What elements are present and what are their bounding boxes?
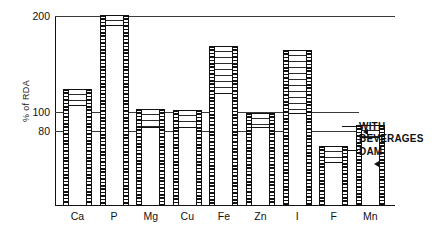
y-tick-label-200: 200 <box>16 11 50 22</box>
x-tick-label-ca: Ca <box>57 211 98 222</box>
bar-edge-right <box>123 15 129 205</box>
bar-edge-left <box>246 113 252 205</box>
annotation-with-beverages-line2: BEVERAGES <box>359 133 424 144</box>
bar-edge-right <box>269 113 275 205</box>
annotation-dam-label: DAM <box>359 146 382 157</box>
bar-cu <box>173 110 202 205</box>
x-tick-label-f: F <box>313 211 354 222</box>
x-tick-label-p: P <box>94 211 135 222</box>
bar-edge-left <box>209 46 215 205</box>
y-axis-ticks: 200 100 80 <box>12 0 50 241</box>
bar-edge-left <box>283 50 289 205</box>
annotation-with-beverages: WITH BEVERAGES <box>359 121 424 144</box>
bar-edge-right <box>306 50 312 205</box>
x-tick-label-mn: Mn <box>350 211 391 222</box>
bar-edge-left <box>63 89 69 205</box>
leader-line-dam <box>344 150 358 151</box>
bar-edge-right <box>232 46 238 205</box>
bar-edge-right <box>196 110 202 205</box>
bar-fe <box>209 46 238 205</box>
bar-f <box>319 146 348 205</box>
bar-p <box>100 15 129 205</box>
annotation-dam: DAM <box>359 146 382 158</box>
arrow-with-beverages-arrowhead <box>363 129 368 135</box>
y-axis-line <box>55 16 56 206</box>
plot-area: CaPMgCuFeZnIFMn <box>55 16 395 206</box>
y-tick-label-100: 100 <box>16 107 50 118</box>
bar-edge-left <box>319 146 325 205</box>
bar-ca <box>63 89 92 205</box>
bar-i <box>283 50 312 205</box>
x-tick-label-mg: Mg <box>130 211 171 222</box>
arrow-dam-arrowhead <box>374 161 379 167</box>
bar-mg <box>136 109 165 205</box>
bar-chart-figure: % of RDA 200 100 80 CaPMgCuFeZnIFMn WITH… <box>0 0 435 241</box>
bar-edge-left <box>173 110 179 205</box>
x-axis-line <box>55 205 395 206</box>
y-tick-label-80: 80 <box>16 126 50 137</box>
x-tick-label-i: I <box>277 211 318 222</box>
bar-edge-right <box>342 146 348 205</box>
bar-edge-right <box>86 89 92 205</box>
bar-zn <box>246 113 275 205</box>
x-tick-label-fe: Fe <box>203 211 244 222</box>
x-tick-label-zn: Zn <box>240 211 281 222</box>
bar-edge-right <box>159 109 165 205</box>
leader-line-with-beverages <box>342 126 358 127</box>
bar-edge-left <box>136 109 142 205</box>
x-tick-label-cu: Cu <box>167 211 208 222</box>
bar-edge-left <box>100 15 106 205</box>
